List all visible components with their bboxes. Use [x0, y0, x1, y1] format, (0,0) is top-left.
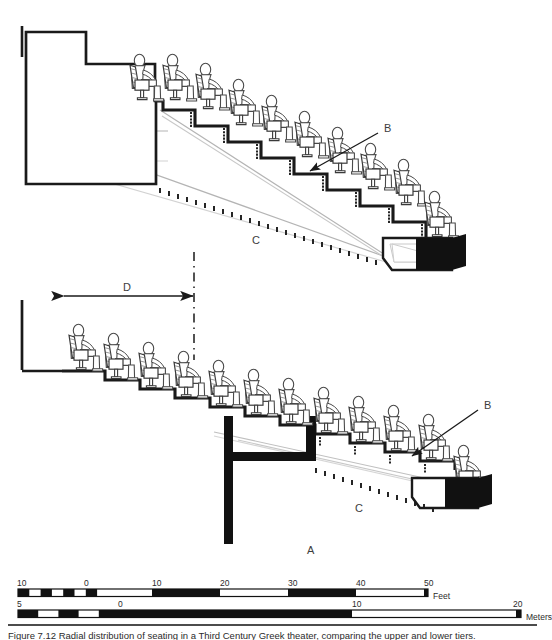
lower-section [22, 300, 492, 544]
scale-feet-tick-0: 10 [17, 578, 26, 588]
scale-feet-tick-4: 30 [288, 578, 297, 588]
scale-feet-tick-6: 50 [424, 578, 433, 588]
scale-meters-tick-2: 10 [352, 599, 361, 609]
scale-feet-tick-2: 10 [152, 578, 161, 588]
label-C-lower: C [355, 502, 363, 514]
lower-support-structure [224, 416, 316, 544]
label-B-upper: B [384, 122, 392, 134]
lower-seated-figures [69, 324, 488, 492]
upper-section [22, 26, 466, 270]
upper-seated-figures [130, 54, 459, 238]
figure-caption: Figure 7.12 Radial distribution of seati… [8, 630, 538, 640]
scale-feet-tick-1: 0 [84, 578, 89, 588]
scale-bar-meters [18, 610, 521, 618]
label-C-upper: C [252, 234, 260, 246]
label-A: A [307, 544, 315, 556]
scale-meters-tick-0: 5 [17, 599, 22, 609]
scale-bars [8, 589, 537, 625]
scale-feet-tick-3: 20 [220, 578, 229, 588]
scale-bar-feet [18, 589, 428, 597]
scale-meters-tick-3: 20 [513, 599, 522, 609]
lower-stage-pit [412, 474, 492, 508]
label-D: D [123, 281, 131, 293]
scale-feet-tick-5: 40 [356, 578, 365, 588]
scale-feet-unit: Feet [433, 591, 450, 601]
label-B-lower: B [484, 399, 492, 411]
scale-meters-unit: Meters [526, 612, 552, 622]
upper-stage-pit [383, 234, 466, 270]
scale-meters-tick-1: 0 [118, 599, 123, 609]
upper-sightline-C-dashes [160, 188, 376, 265]
